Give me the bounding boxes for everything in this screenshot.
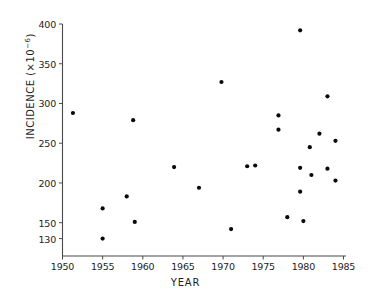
x-tick-label: 1950 — [51, 261, 74, 272]
x-tick-label: 1955 — [91, 261, 114, 272]
data-point — [276, 128, 280, 132]
data-point — [317, 132, 321, 136]
data-point — [71, 111, 75, 115]
data-point — [285, 215, 289, 219]
y-tick-label: 150 — [20, 217, 56, 228]
data-point — [325, 94, 329, 98]
data-point — [131, 118, 135, 122]
data-point — [308, 145, 312, 149]
y-tick-label: 200 — [20, 177, 56, 188]
data-point — [298, 28, 302, 32]
data-point — [197, 186, 201, 190]
data-point — [276, 113, 280, 117]
data-point — [229, 227, 233, 231]
data-point — [101, 237, 105, 241]
data-point — [298, 190, 302, 194]
data-point — [298, 166, 302, 170]
data-point — [219, 80, 223, 84]
y-axis-title: INCIDENCE (×10−6) — [24, 0, 36, 176]
data-point — [245, 164, 249, 168]
data-point — [133, 220, 137, 224]
x-tick-label: 1960 — [131, 261, 154, 272]
data-point — [333, 178, 337, 182]
x-tick-label: 1980 — [292, 261, 315, 272]
x-axis-title: YEAR — [0, 277, 371, 288]
data-point — [125, 194, 129, 198]
y-axis-title-text: INCIDENCE (×10 — [25, 49, 36, 139]
x-tick-label: 1970 — [211, 261, 234, 272]
data-point — [101, 206, 105, 210]
x-tick-label: 1975 — [252, 261, 275, 272]
y-axis-title-exponent: −6 — [24, 38, 32, 49]
data-points-layer — [71, 28, 338, 240]
scatter-chart-figure: 130150200250300350400 195019551960196519… — [0, 0, 371, 301]
data-point — [325, 167, 329, 171]
data-point — [172, 165, 176, 169]
data-point — [301, 219, 305, 223]
x-tick-label: 1985 — [332, 261, 355, 272]
data-point — [253, 163, 257, 167]
data-point — [333, 139, 337, 143]
plot-canvas — [0, 0, 371, 301]
x-tick-label: 1965 — [171, 261, 194, 272]
y-axis-title-tail: ) — [25, 33, 36, 37]
y-tick-label: 130 — [20, 233, 56, 244]
data-point — [309, 173, 313, 177]
